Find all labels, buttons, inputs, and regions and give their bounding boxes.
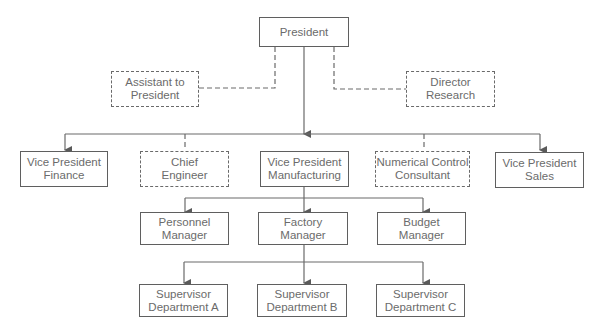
node-label: Numerical Control [376,156,468,169]
node-president: President [259,17,349,47]
node-vp-sales: Vice President Sales [495,152,584,188]
node-chief-engineer: Chief Engineer [140,151,229,187]
node-factory-manager: Factory Manager [258,212,348,245]
node-label: Supervisor [275,288,330,301]
node-budget-manager: Budget Manager [377,212,466,245]
node-label: Supervisor [393,288,448,301]
node-vp-manufacturing: Vice President Manufacturing [260,151,349,187]
node-supervisor-department-c: Supervisor Department C [376,284,465,317]
node-label: Director [430,76,470,89]
node-label: Engineer [161,169,207,182]
node-label: Finance [44,169,85,182]
node-label: President [280,26,329,39]
node-label: Vice President [268,156,342,169]
node-label: Department C [385,301,457,314]
node-label: Manager [280,229,325,242]
node-label: Department B [267,301,338,314]
node-label: Personnel [159,216,211,229]
node-personnel-manager: Personnel Manager [140,212,229,245]
node-label: Assistant to [125,76,184,89]
node-label: Manufacturing [268,169,341,182]
node-label: Consultant [395,169,450,182]
node-vp-finance: Vice President Finance [20,151,108,187]
node-label: Manager [399,229,444,242]
node-label: Factory [284,216,322,229]
node-label: Research [426,89,475,102]
node-director-research: Director Research [406,71,495,107]
node-label: Supervisor [156,288,211,301]
node-label: Department A [148,301,218,314]
node-label: Budget [403,216,439,229]
node-label: Vice President [503,157,577,170]
node-label: President [131,89,180,102]
node-assistant-to-president: Assistant to President [111,71,199,107]
node-supervisor-department-a: Supervisor Department A [139,284,228,317]
node-label: Vice President [27,156,101,169]
node-label: Chief [171,156,198,169]
node-label: Sales [525,170,554,183]
node-label: Manager [162,229,207,242]
node-numerical-control-consultant: Numerical Control Consultant [375,151,470,187]
node-supervisor-department-b: Supervisor Department B [257,284,347,317]
